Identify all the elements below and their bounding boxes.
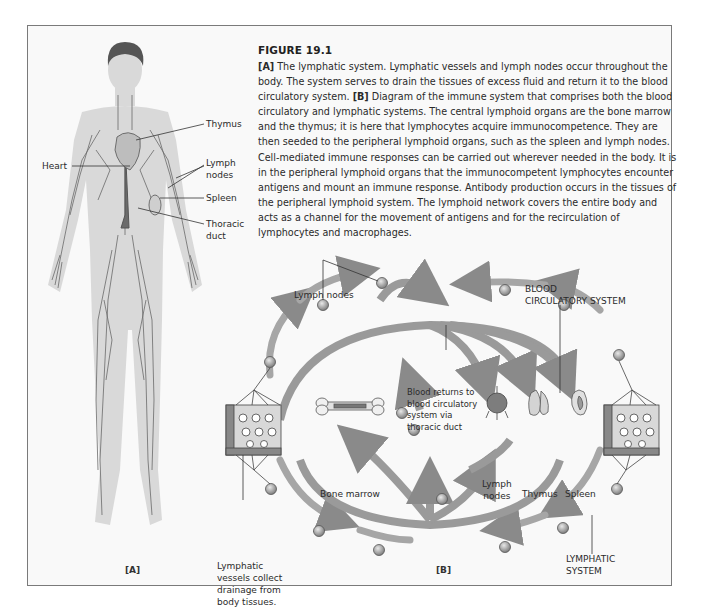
thymus-organ-icon <box>529 390 549 415</box>
panel-b-label: [B] <box>436 565 451 575</box>
label-spleen-b: Spleen <box>565 488 596 500</box>
bone-marrow-icon <box>316 398 384 415</box>
label-thymus-b: Thymus <box>522 488 558 500</box>
label-bone-marrow: Bone marrow <box>320 488 380 500</box>
label-lymph-nodes-top: Lymph nodes <box>294 289 354 301</box>
tissue-block-left <box>226 405 281 455</box>
label-blood-circulatory-system: BLOOD CIRCULATORY SYSTEM <box>525 283 626 307</box>
label-lymph-nodes-organ: Lymph nodes <box>482 478 512 502</box>
label-lymphatic-system: LYMPHATIC SYSTEM <box>566 553 615 577</box>
label-lymphatic-vessels: Lymphatic vessels collect drainage from … <box>217 560 282 608</box>
spleen-organ-icon <box>572 390 587 415</box>
label-blood-returns: Blood returns to blood circulatory syste… <box>407 387 477 433</box>
lymph-node-organ-icon <box>486 386 508 420</box>
tissue-block-right <box>604 405 659 455</box>
